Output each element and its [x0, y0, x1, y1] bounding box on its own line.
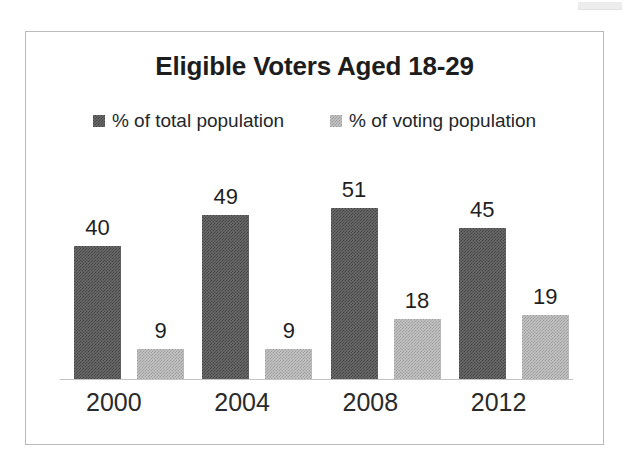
bar-group-2000: 40 9	[60, 152, 188, 379]
bar-value-label: 19	[533, 286, 557, 308]
category-label-2004: 2004	[188, 388, 316, 417]
chart-frame: Eligible Voters Aged 18-29 % of total po…	[25, 31, 604, 445]
bar-rect	[331, 208, 378, 379]
bar-rect	[202, 215, 249, 379]
bar-rect	[522, 315, 569, 379]
bar-voting-population-2004: 9	[265, 152, 312, 379]
bar-rect	[459, 228, 506, 379]
bar-voting-population-2000: 9	[137, 152, 184, 379]
scan-artifact	[578, 2, 622, 10]
bar-total-population-2000: 40	[74, 152, 121, 379]
chart-title: Eligible Voters Aged 18-29	[26, 51, 603, 82]
legend-label-total-population: % of total population	[112, 110, 284, 132]
bar-value-label: 45	[470, 199, 494, 221]
bar-total-population-2008: 51	[331, 152, 378, 379]
legend-swatch-icon-total-population	[93, 115, 105, 127]
bar-rect	[265, 349, 312, 379]
bar-value-label: 18	[405, 290, 429, 312]
bar-rect	[137, 349, 184, 379]
bar-value-label: 40	[85, 217, 109, 239]
category-axis: 2000 2004 2008 2012	[60, 388, 573, 417]
bar-voting-population-2012: 19	[522, 152, 569, 379]
chart-legend: % of total population % of voting popula…	[26, 110, 603, 132]
category-label-2008: 2008	[317, 388, 445, 417]
axis-baseline	[60, 379, 573, 380]
category-label-2000: 2000	[60, 388, 188, 417]
bar-value-label: 9	[283, 320, 295, 342]
legend-label-voting-population: % of voting population	[349, 110, 536, 132]
bar-rect	[74, 246, 121, 379]
bar-value-label: 49	[214, 186, 238, 208]
bar-total-population-2012: 45	[459, 152, 506, 379]
category-label-2012: 2012	[445, 388, 573, 417]
legend-entry-total-population: % of total population	[93, 110, 284, 132]
bar-group-2008: 51 18	[317, 152, 445, 379]
bar-rect	[394, 319, 441, 379]
bar-group-2012: 45 19	[445, 152, 573, 379]
bar-value-label: 9	[154, 320, 166, 342]
bar-value-label: 51	[342, 179, 366, 201]
bar-voting-population-2008: 18	[394, 152, 441, 379]
legend-entry-voting-population: % of voting population	[330, 110, 536, 132]
bar-groups: 40 9 49 9 51	[60, 152, 573, 379]
plot-area: 40 9 49 9 51	[40, 152, 589, 434]
bar-total-population-2004: 49	[202, 152, 249, 379]
legend-swatch-icon-voting-population	[330, 115, 342, 127]
bar-group-2004: 49 9	[188, 152, 316, 379]
